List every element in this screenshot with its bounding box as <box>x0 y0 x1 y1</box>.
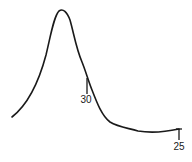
peak-diagram <box>0 0 192 162</box>
marker-30-label: 30 <box>80 95 91 105</box>
marker-25-label: 25 <box>173 142 184 152</box>
peak-curve <box>12 10 179 132</box>
